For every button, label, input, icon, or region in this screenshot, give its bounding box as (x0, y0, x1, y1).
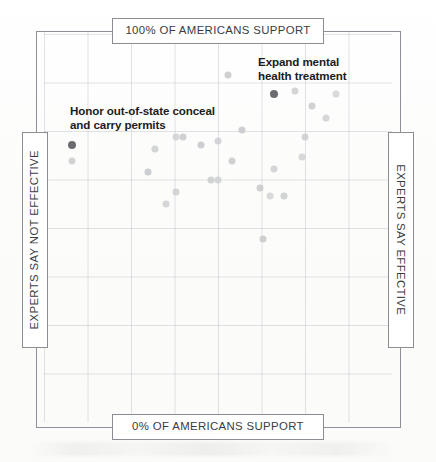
scatter-point (228, 157, 235, 164)
plot-area (44, 32, 392, 422)
scatter-point (270, 165, 277, 172)
scatter-point (208, 177, 215, 184)
scatter-point (173, 134, 180, 141)
frame-line-left-lower (36, 347, 37, 428)
frame-line-bottom-right (323, 427, 401, 428)
frame-line-top-right (323, 31, 401, 32)
scatter-point (291, 87, 298, 94)
axis-label-box-bottom: 0% OF AMERICANS SUPPORT (112, 414, 324, 440)
scatter-point (322, 114, 329, 121)
scatter-point (162, 200, 169, 207)
scatter-point (173, 188, 180, 195)
scatter-point (267, 192, 274, 199)
frame-line-left-upper (36, 31, 37, 133)
axis-label-box-right: EXPERTS SAY EFFECTIVE (388, 132, 414, 348)
axis-label-right-text: EXPERTS SAY EFFECTIVE (395, 164, 406, 315)
scatter-point (215, 177, 222, 184)
scatter-point (256, 185, 263, 192)
frame-line-right-lower (400, 347, 401, 428)
scatter-point-highlighted (68, 141, 76, 149)
axis-label-top-text: 100% OF AMERICANS SUPPORT (125, 25, 310, 36)
gridlines (44, 32, 392, 422)
scatter-point (281, 192, 288, 199)
frame-line-bottom-left (36, 427, 113, 428)
scatter-point (225, 71, 232, 78)
scatter-point (308, 103, 315, 110)
axis-label-box-top: 100% OF AMERICANS SUPPORT (112, 18, 324, 44)
scatter-point (180, 134, 187, 141)
scatter-point (260, 235, 267, 242)
frame-line-right-upper (400, 31, 401, 133)
scatter-point-highlighted (270, 90, 278, 98)
scatter-point (68, 157, 75, 164)
axis-label-bottom-text: 0% OF AMERICANS SUPPORT (132, 421, 304, 432)
axis-label-left-text: EXPERTS SAY NOT EFFECTIVE (29, 150, 40, 329)
scatter-point (302, 134, 309, 141)
scatter-point (145, 169, 152, 176)
scatter-point (152, 146, 159, 153)
scatter-point (333, 91, 340, 98)
scatter-point (239, 126, 246, 133)
scatter-point (298, 153, 305, 160)
axis-label-box-left: EXPERTS SAY NOT EFFECTIVE (22, 132, 48, 348)
annotation-expand-mental-health: Expand mental health treatment (258, 55, 347, 82)
scatter-point (215, 138, 222, 145)
annotation-honor-conceal-carry: Honor out-of-state conceal and carry per… (70, 104, 215, 131)
scatter-point (197, 142, 204, 149)
frame-line-top-left (36, 31, 113, 32)
